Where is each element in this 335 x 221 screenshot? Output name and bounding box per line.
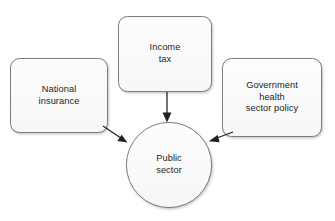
node-income-tax[interactable] (119, 17, 212, 92)
node-national-insurance[interactable] (11, 59, 108, 133)
diagram-canvas: National insurance Income tax Government… (0, 0, 335, 221)
node-government-health-sector-policy[interactable] (223, 59, 322, 137)
arrow-government-to-public-sector (209, 132, 233, 142)
arrow-national-insurance-to-public-sector (103, 126, 128, 143)
diagram-graphics (0, 0, 335, 221)
arrow-income-tax-to-public-sector (163, 92, 172, 123)
node-public-sector[interactable] (126, 122, 211, 207)
